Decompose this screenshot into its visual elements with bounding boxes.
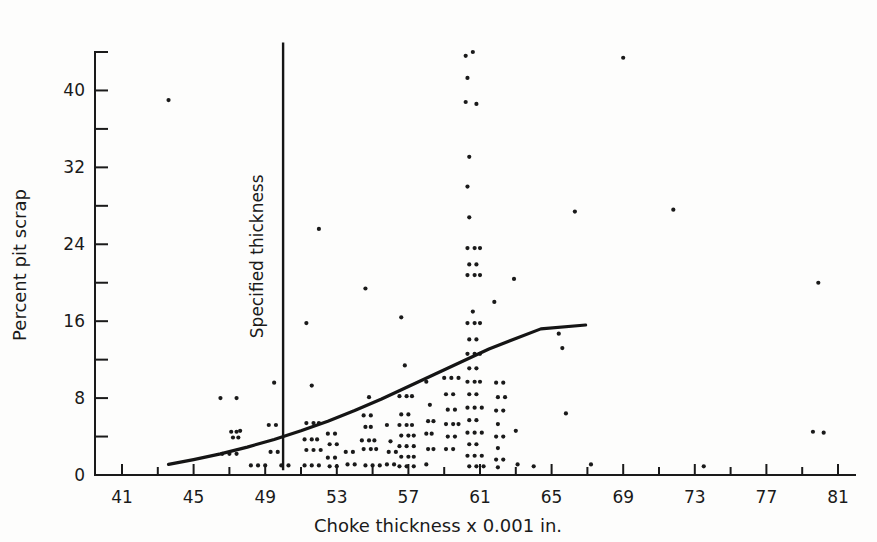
data-point (267, 423, 271, 427)
data-point (467, 215, 471, 219)
data-point (557, 332, 561, 336)
data-point (344, 450, 348, 454)
data-point (369, 447, 373, 451)
data-point (431, 447, 435, 451)
data-point (304, 321, 308, 325)
data-point (238, 429, 242, 433)
data-point (388, 439, 392, 443)
x-tick-label: 61 (469, 487, 491, 507)
data-point (374, 447, 378, 451)
data-point (456, 376, 460, 380)
data-point (412, 455, 416, 459)
data-point (362, 413, 366, 417)
data-point (397, 464, 401, 468)
data-point (166, 98, 170, 102)
data-point (451, 447, 455, 451)
x-tick-label: 41 (111, 487, 133, 507)
data-point (263, 463, 267, 467)
data-point (403, 363, 407, 367)
data-point (501, 458, 505, 462)
data-point (363, 463, 367, 467)
data-point (465, 454, 469, 458)
data-point (412, 464, 416, 468)
data-point (310, 437, 314, 441)
data-point (474, 366, 478, 370)
data-point (465, 406, 469, 410)
data-point (353, 462, 357, 466)
data-point (621, 56, 625, 60)
data-point (478, 273, 482, 277)
data-point (399, 412, 403, 416)
data-point (218, 396, 222, 400)
x-tick-label: 53 (326, 487, 348, 507)
data-point (501, 434, 505, 438)
data-point (363, 425, 367, 429)
data-point (480, 406, 484, 410)
y-tick-label: 32 (63, 157, 85, 177)
specified-thickness-label: Specified thickness (247, 174, 267, 338)
data-point (229, 430, 233, 434)
data-point (231, 435, 235, 439)
data-point (465, 184, 469, 188)
data-point (474, 262, 478, 266)
data-point (345, 462, 349, 466)
data-point (467, 155, 471, 159)
data-point (286, 463, 290, 467)
fitted-curve-layer (169, 325, 586, 464)
data-point (360, 438, 364, 442)
data-point (474, 102, 478, 106)
data-point (302, 463, 306, 467)
data-point (573, 209, 577, 213)
data-point (451, 422, 455, 426)
data-point (471, 309, 475, 313)
data-point (335, 442, 339, 446)
data-point (234, 396, 238, 400)
data-point (405, 464, 409, 468)
data-point (453, 408, 457, 412)
y-axis-title: Percent pit scrap (9, 189, 30, 341)
data-point (501, 381, 505, 385)
data-point (369, 425, 373, 429)
x-tick-label: 81 (827, 487, 849, 507)
data-point (515, 462, 519, 466)
data-point (449, 376, 453, 380)
data-point (467, 366, 471, 370)
data-point (236, 435, 240, 439)
data-point (442, 376, 446, 380)
data-point (394, 450, 398, 454)
annotation-layer: Specified thickness (247, 42, 284, 470)
data-point (319, 448, 323, 452)
data-point (406, 412, 410, 416)
data-point (351, 450, 355, 454)
data-point (444, 447, 448, 451)
data-point (276, 450, 280, 454)
data-point (310, 383, 314, 387)
data-point (494, 381, 498, 385)
y-tick-label: 24 (63, 234, 85, 254)
data-point (560, 346, 564, 350)
data-point (465, 352, 469, 356)
data-point (426, 447, 430, 451)
data-point (465, 431, 469, 435)
data-point (304, 448, 308, 452)
data-point (480, 431, 484, 435)
data-point (335, 464, 339, 468)
data-point (467, 464, 471, 468)
data-point (456, 422, 460, 426)
data-point (234, 452, 238, 456)
data-point (385, 462, 389, 466)
data-point (446, 408, 450, 412)
data-point (367, 438, 371, 442)
data-point (405, 394, 409, 398)
data-point (317, 463, 321, 467)
data-point (496, 422, 500, 426)
data-point (399, 433, 403, 437)
data-point (405, 444, 409, 448)
x-tick-label: 49 (254, 487, 276, 507)
data-point (478, 246, 482, 250)
y-tick-label: 8 (74, 388, 85, 408)
data-point (399, 315, 403, 319)
data-point (317, 227, 321, 231)
data-point (480, 454, 484, 458)
data-point (451, 392, 455, 396)
